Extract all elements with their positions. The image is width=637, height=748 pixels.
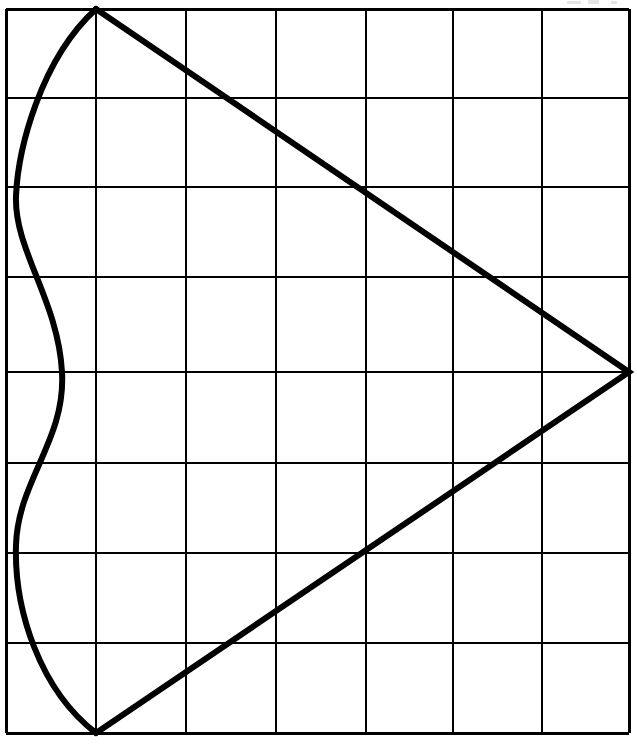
top-edge-speck-3	[611, 1, 617, 4]
top-edge-speck-2	[588, 0, 599, 4]
scan-artifact-layer	[567, 0, 617, 4]
figure-canvas	[0, 0, 637, 748]
top-edge-speck-1	[567, 1, 581, 4]
grid-layer	[6, 9, 629, 733]
figure-svg	[0, 0, 637, 748]
